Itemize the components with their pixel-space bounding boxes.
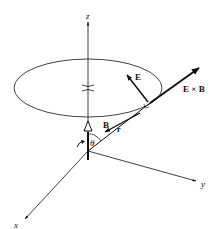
y-axis (88, 151, 196, 181)
y-axis-label: y (200, 179, 205, 189)
x-axis-label: x (13, 220, 18, 229)
diagram-canvas: z y x E × B (0, 0, 221, 229)
z-axis-label: z (85, 11, 90, 21)
x-axis (25, 151, 88, 219)
radius-label: r (117, 125, 121, 134)
poynting-vector-label: E × B (183, 84, 205, 94)
electric-field-label: E (135, 72, 141, 82)
theta-label: θ (90, 138, 95, 148)
magnetic-field-label: B (103, 120, 109, 130)
rotation-arrow-icon (77, 140, 85, 147)
